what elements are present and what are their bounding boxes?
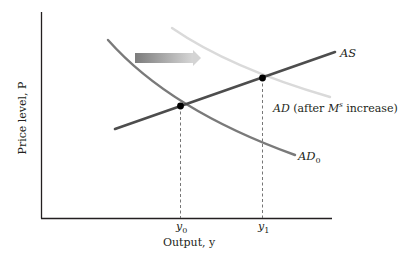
equilibrium-point-new (259, 75, 266, 82)
ad0-label: AD0 (297, 149, 321, 165)
as-ad-diagram: AS AD (after Ms increase) AD0 y0 y1 Outp… (0, 0, 399, 256)
shift-arrow-icon (135, 50, 201, 66)
ad1-label: AD (after Ms increase) (272, 101, 398, 115)
x-tick-y0: y0 (175, 220, 187, 235)
as-curve (115, 52, 335, 129)
x-axis-label: Output, y (163, 236, 216, 249)
as-label: AS (339, 46, 356, 60)
x-tick-y1: y1 (257, 220, 269, 235)
equilibrium-point-initial (177, 103, 184, 110)
y-axis-label: Price level, P (16, 81, 29, 155)
